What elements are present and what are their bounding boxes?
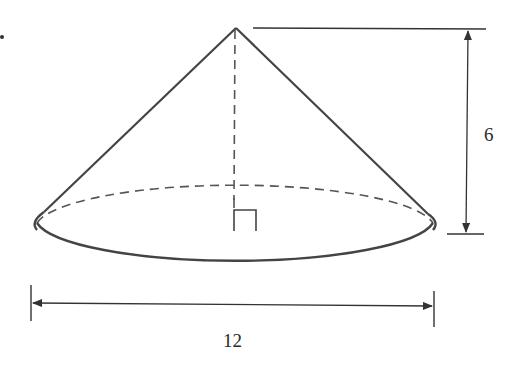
cone-left-slant: [44, 28, 236, 212]
cone-right-slant: [236, 28, 428, 214]
base-back-edge-dashed: [37, 185, 433, 223]
height-top-extension: [253, 28, 486, 29]
width-dimension-arrow: [33, 303, 432, 306]
base-front-edge: [37, 223, 433, 261]
diameter-label: 12: [223, 331, 242, 350]
cone-diagram: [0, 0, 516, 369]
height-dimension-arrow: [466, 31, 468, 232]
right-angle-marker: [234, 210, 256, 231]
height-line-dashed: [234, 30, 235, 200]
height-label: 6: [484, 125, 494, 144]
